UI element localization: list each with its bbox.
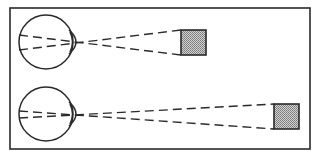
- panel-far-object: [19, 87, 299, 141]
- eyeball-icon: [19, 15, 73, 69]
- viewed-object-square: [274, 104, 299, 129]
- sight-ray-line: [19, 111, 274, 129]
- sight-ray-line: [19, 35, 181, 55]
- sight-ray-line: [19, 104, 274, 118]
- sight-ray-line: [19, 30, 181, 50]
- viewed-object-square: [181, 30, 206, 55]
- panel-near-object: [19, 15, 206, 69]
- visual-angle-diagram: [0, 0, 320, 158]
